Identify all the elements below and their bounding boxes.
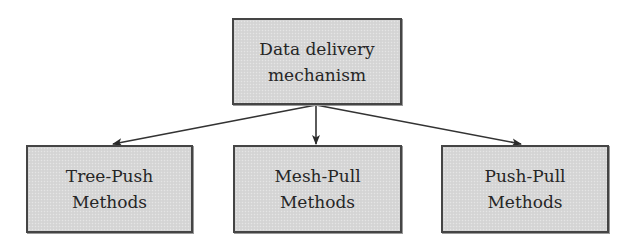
node-label-line-2: mechanism <box>268 62 366 88</box>
node-label-line-1: Mesh-Pull <box>274 163 360 189</box>
node-label-line-2: Methods <box>72 189 147 215</box>
edge-root-to-tree-push <box>113 105 316 144</box>
node-push-pull-methods: Push-Pull Methods <box>441 145 609 233</box>
node-mesh-pull-methods: Mesh-Pull Methods <box>233 145 402 233</box>
data-delivery-diagram: Data delivery mechanism Tree-Push Method… <box>0 0 639 243</box>
edge-root-to-push-pull <box>316 105 521 144</box>
node-label-line-1: Tree-Push <box>66 163 153 189</box>
node-data-delivery-mechanism: Data delivery mechanism <box>232 18 402 105</box>
node-label-line-2: Methods <box>280 189 355 215</box>
node-label-line-1: Data delivery <box>259 36 374 62</box>
node-label-line-1: Push-Pull <box>484 163 565 189</box>
node-label-line-2: Methods <box>487 189 562 215</box>
node-tree-push-methods: Tree-Push Methods <box>26 145 193 233</box>
